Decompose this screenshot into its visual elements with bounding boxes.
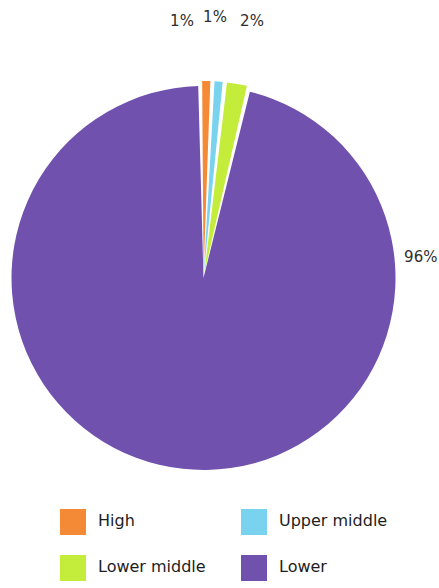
- legend-label-high: High: [98, 508, 135, 534]
- chart-legend: High Upper middle Lower middle Lower: [60, 508, 439, 588]
- legend-label-upper-middle: Upper middle: [279, 508, 387, 534]
- legend-swatch-lower-middle: [60, 555, 86, 581]
- legend-swatch-upper-middle: [241, 509, 267, 535]
- legend-item-lower-middle: Lower middle: [60, 554, 241, 581]
- slice-value-label-upper-middle: 1%: [203, 8, 227, 26]
- slice-value-label-lower: 96%: [404, 248, 438, 266]
- pie-plot-area: 1% 1% 2% 96%: [0, 0, 439, 500]
- legend-label-lower: Lower: [279, 554, 327, 580]
- pie-svg: [0, 0, 439, 500]
- legend-label-lower-middle: Lower middle: [98, 554, 206, 580]
- pie-slice-group: [12, 81, 396, 470]
- pie-chart: 1% 1% 2% 96% High Upper middle Lower mid…: [0, 0, 439, 588]
- legend-item-upper-middle: Upper middle: [241, 508, 422, 535]
- slice-value-label-high: 1%: [170, 12, 194, 30]
- slice-value-label-lower-middle: 2%: [240, 12, 264, 30]
- legend-swatch-lower: [241, 555, 267, 581]
- legend-item-high: High: [60, 508, 241, 535]
- legend-swatch-high: [60, 509, 86, 535]
- legend-item-lower: Lower: [241, 554, 422, 581]
